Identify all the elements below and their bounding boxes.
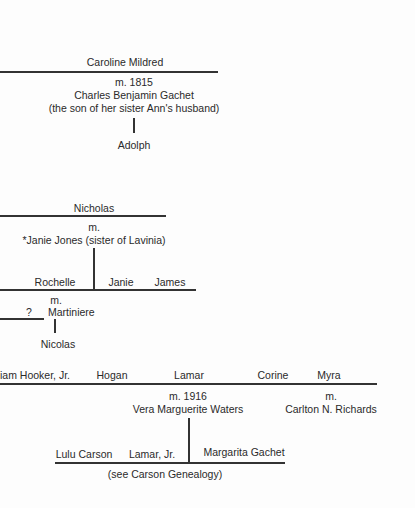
person-caroline-mildred: Caroline Mildred	[87, 56, 163, 68]
sibling-line	[0, 215, 166, 217]
sibling-line	[0, 383, 377, 385]
spouse-martiniere: Martiniere	[48, 306, 95, 318]
children-line	[0, 289, 196, 291]
person-nicholas: Nicholas	[74, 202, 114, 214]
spouse-janie-jones: *Janie Jones (sister of Lavinia)	[23, 234, 166, 246]
person-william-hooker-jr: iam Hooker, Jr.	[0, 369, 70, 381]
person-nicolas: Nicolas	[41, 338, 75, 350]
person-lamar: Lamar	[174, 369, 204, 381]
marriage-date: m. 1815	[115, 76, 153, 88]
person-corine: Corine	[258, 369, 289, 381]
children-line	[55, 462, 285, 464]
descent-line	[93, 248, 95, 290]
person-hogan: Hogan	[97, 369, 128, 381]
person-rochelle: Rochelle	[35, 276, 76, 288]
person-lulu-carson: Lulu Carson	[56, 448, 113, 460]
unknown-spouse: ?	[26, 306, 32, 318]
spouse-vera-waters: Vera Marguerite Waters	[133, 403, 244, 415]
sibling-line	[0, 71, 218, 73]
person-myra: Myra	[317, 369, 340, 381]
person-james: James	[155, 276, 186, 288]
person-lamar-jr: Lamar, Jr.	[129, 448, 175, 460]
marriage-label: m.	[88, 221, 100, 233]
lineage-line	[0, 318, 44, 320]
marriage-label: m.	[50, 294, 62, 306]
marriage-date: m. 1916	[169, 390, 207, 402]
descent-line	[54, 319, 56, 333]
person-adolph: Adolph	[118, 139, 151, 151]
marriage-label: m.	[325, 390, 337, 402]
person-janie: Janie	[108, 276, 133, 288]
reference-note: (see Carson Genealogy)	[108, 468, 222, 480]
person-margarita-gachet: Margarita Gachet	[203, 446, 284, 458]
spouse-note: (the son of her sister Ann's husband)	[49, 102, 220, 114]
spouse-carlton-richards: Carlton N. Richards	[285, 403, 377, 415]
descent-line	[188, 418, 190, 463]
descent-line	[133, 118, 135, 133]
spouse-charles-gachet: Charles Benjamin Gachet	[74, 89, 194, 101]
